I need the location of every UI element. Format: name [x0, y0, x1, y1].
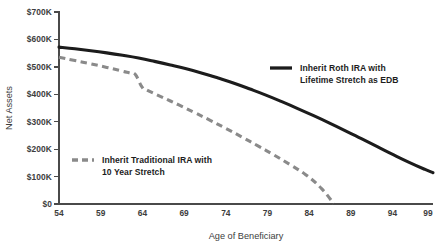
series-line-traditional-ira	[59, 57, 334, 203]
legend-label-traditional-line1: Inherit Traditional IRA with	[102, 155, 212, 165]
x-tick-label: 54	[54, 208, 64, 218]
net-assets-line-chart: Net Assets $700K $600K $500K $400K $300K…	[0, 0, 439, 247]
y-tick-label: $500K	[27, 62, 52, 72]
x-tick-label: 64	[138, 208, 148, 218]
x-tick-label: 94	[388, 208, 398, 218]
legend-traditional-ira: Inherit Traditional IRA with 10 Year Str…	[72, 155, 212, 177]
legend-label-traditional-line2: 10 Year Stretch	[102, 167, 165, 177]
y-tick-label: $600K	[27, 34, 52, 44]
legend-label-roth-line2: Lifetime Stretch as EDB	[300, 75, 399, 85]
y-tick-label: $300K	[27, 117, 52, 127]
y-tick-label: $200K	[27, 144, 52, 154]
y-axis-tick-labels: $700K $600K $500K $400K $300K $200K $100…	[27, 7, 52, 209]
x-tick-label: 84	[304, 208, 314, 218]
y-tick-label: $100K	[27, 172, 52, 182]
legend-label-roth-line1: Inherit Roth IRA with	[300, 63, 386, 73]
x-axis-title: Age of Beneficiary	[209, 231, 284, 241]
x-tick-label: 99	[423, 208, 433, 218]
y-tick-label: $700K	[27, 7, 52, 17]
x-tick-label: 69	[179, 208, 189, 218]
x-tick-label: 79	[263, 208, 273, 218]
chart-container: Net Assets $700K $600K $500K $400K $300K…	[0, 0, 439, 247]
y-axis-ticks	[54, 12, 59, 204]
y-axis-title: Net Assets	[4, 86, 14, 130]
legend-roth-ira: Inherit Roth IRA with Lifetime Stretch a…	[270, 63, 399, 85]
x-tick-label: 59	[96, 208, 106, 218]
x-tick-label: 74	[221, 208, 231, 218]
x-tick-label: 89	[346, 208, 356, 218]
y-tick-label: $400K	[27, 89, 52, 99]
y-tick-label: $0	[42, 199, 52, 209]
x-axis-tick-labels: 54 59 64 69 74 79 84 89 94 99	[54, 208, 433, 218]
